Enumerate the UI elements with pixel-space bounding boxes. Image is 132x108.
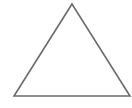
diagram-canvas: [0, 0, 132, 108]
triangle-shape: [14, 4, 130, 96]
